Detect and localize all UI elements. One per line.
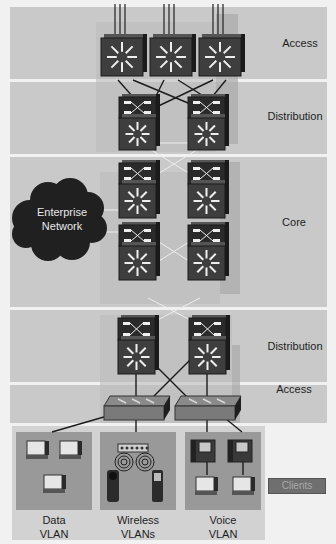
wireless-wave-icon [139,456,151,468]
data-vlan-label: Data VLAN [14,513,94,541]
distribution-switch-3 [118,336,159,374]
voice-ip-phone-1 [191,440,215,462]
data-pc-1 [26,441,49,459]
voice-vlan-line2: VLAN [183,527,263,541]
network-diagram [0,0,336,544]
wireless-vlan-line2: VLANs [98,527,178,541]
data-vlan-line2: VLAN [14,527,94,541]
voice-pc-1 [195,477,218,495]
distribution-switch-1 [119,114,160,150]
voice-vlan-label: Voice VLAN [183,513,263,541]
distribution-switch-4 [189,336,230,374]
core-switch-1 [119,180,160,218]
voice-ip-phone-2 [228,440,252,462]
voice-pc-2 [232,477,255,495]
mobile-phone-screen [154,473,161,481]
wireless-vlan-label: Wireless VLANs [98,513,178,541]
core-switch-2 [188,180,229,218]
distribution-switch-2 [188,114,229,150]
core-switch-3 [119,242,160,280]
cloud-label-line2: Network [12,219,112,233]
access-switch-1 [101,34,147,76]
wireless-vlan-line1: Wireless [98,513,178,527]
access-bottom-switch-1 [104,396,170,420]
access-bottom-switch-2 [175,396,241,420]
access-switch-2 [150,34,196,76]
wireless-wave-icon [142,459,148,465]
wireless-access-point [115,444,154,471]
clients-legend-badge: Clients [268,478,326,494]
data-vlan-line1: Data [14,513,94,527]
enterprise-network-label: Enterprise Network [12,205,112,233]
data-pc-2 [59,441,82,459]
access-switch-3 [199,34,245,76]
cordless-phone-earpiece [109,472,117,480]
wireless-wave-icon [121,459,127,465]
cloud-label-line1: Enterprise [12,205,112,219]
wireless-wave-icon [118,456,130,468]
data-pc-3 [43,475,66,493]
voice-vlan-line1: Voice [183,513,263,527]
core-switch-4 [188,242,229,280]
